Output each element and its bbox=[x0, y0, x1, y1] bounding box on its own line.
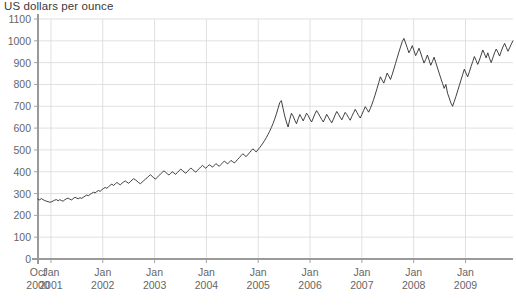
x-tick-label-year: 2009 bbox=[454, 279, 478, 291]
x-tick-label-month: Jan bbox=[405, 266, 422, 278]
y-tick-label: 800 bbox=[13, 78, 31, 90]
x-tick-label-year: 2008 bbox=[402, 279, 426, 291]
x-tick-label-month: Jan bbox=[42, 266, 59, 278]
x-tick-label-month: Jan bbox=[302, 266, 319, 278]
y-tick-label: 500 bbox=[13, 144, 31, 156]
x-tick-label-month: Jan bbox=[457, 266, 474, 278]
y-tick-label: 1100 bbox=[8, 13, 31, 25]
y-tick-label: 600 bbox=[13, 122, 31, 134]
y-tick-label: 0 bbox=[25, 253, 31, 265]
y-tick-labels: 010020030040050060070080090010001100 bbox=[8, 13, 32, 265]
x-tick-label-year: 2003 bbox=[143, 279, 167, 291]
y-tick-label: 900 bbox=[13, 57, 31, 69]
x-tick-label-month: Jan bbox=[94, 266, 111, 278]
x-tick-labels: Oct2000Jan2001Jan2002Jan2003Jan2004Jan20… bbox=[26, 266, 477, 291]
x-gridlines bbox=[38, 19, 466, 259]
x-tick-label-month: Jan bbox=[146, 266, 163, 278]
y-tick-label: 1000 bbox=[8, 35, 32, 47]
chart-axis-title: US dollars per ounce bbox=[4, 0, 113, 12]
x-tick-label-month: Jan bbox=[353, 266, 370, 278]
x-tick-label-year: 2004 bbox=[195, 279, 219, 291]
x-tick-label-year: 2002 bbox=[91, 279, 115, 291]
y-tick-label: 700 bbox=[13, 100, 31, 112]
x-tick-label-year: 2001 bbox=[39, 279, 63, 291]
x-tick-label-year: 2006 bbox=[298, 279, 322, 291]
y-tick-label: 400 bbox=[13, 166, 31, 178]
y-tick-label: 300 bbox=[13, 188, 31, 200]
y-tick-label: 100 bbox=[13, 231, 31, 243]
x-tick-label-month: Jan bbox=[198, 266, 215, 278]
x-tick-label-year: 2007 bbox=[350, 279, 374, 291]
axis-lines bbox=[32, 14, 513, 264]
y-tick-label: 200 bbox=[13, 209, 31, 221]
x-tick-label-year: 2005 bbox=[247, 279, 271, 291]
plot-area: 010020030040050060070080090010001100 Oct… bbox=[0, 0, 516, 305]
x-tick-label-month: Jan bbox=[250, 266, 267, 278]
gold-price-chart: US dollars per ounce 0100200300400500600… bbox=[0, 0, 516, 305]
y-gridlines bbox=[38, 19, 513, 259]
